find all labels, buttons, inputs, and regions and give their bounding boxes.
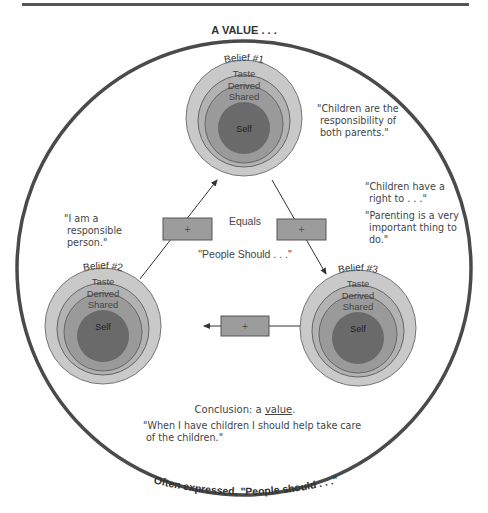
- ring-label-taste: Taste: [224, 68, 264, 81]
- value-word: value: [265, 404, 292, 415]
- ring-label-shared: Shared: [333, 301, 383, 314]
- bottom-caption: Often expressed, "People should . . .": [153, 473, 339, 497]
- ring-label-self: Self: [224, 123, 264, 136]
- belief-3-quote-a: "Children have a right to . . .": [365, 181, 445, 205]
- ring-label-shared: Shared: [78, 299, 128, 312]
- svg-text:Often expressed, "People shoul: Often expressed, "People should . . .": [153, 473, 339, 497]
- ring-label-shared: Shared: [219, 91, 269, 104]
- ring-label-self: Self: [83, 321, 123, 334]
- belief-2-quote: "I am a responsible person.": [64, 213, 122, 249]
- belief-3-quote-b: "Parenting is a very important thing to …: [365, 210, 459, 246]
- ring-label-self: Self: [338, 323, 378, 336]
- equals-label: Equals: [210, 215, 280, 228]
- conclusion-line: Conclusion: a value.: [140, 404, 350, 416]
- plus-symbol: +: [221, 320, 269, 333]
- plus-symbol: +: [277, 223, 326, 236]
- ring-label-taste: Taste: [338, 278, 378, 291]
- belief-1-quote: "Children are the responsibility of both…: [317, 103, 399, 139]
- plus-symbol: +: [163, 223, 212, 236]
- people-should-label: "People Should . . .": [185, 248, 305, 261]
- ring-label-taste: Taste: [83, 276, 123, 289]
- conclusion-quote: "When I have children I should help take…: [143, 420, 361, 444]
